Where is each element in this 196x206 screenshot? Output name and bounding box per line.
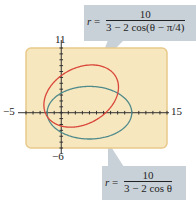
equation-lhs: r =	[87, 15, 100, 27]
equation-fraction: 10 3 − 2 cos θ	[124, 169, 172, 194]
y-max-label: 11	[55, 33, 66, 45]
equation-fraction: 10 3 − 2 cos(θ − π/4)	[106, 8, 185, 33]
equation-callout-top: r = 10 3 − 2 cos(θ − π/4)	[84, 5, 196, 41]
equation-lhs: r =	[105, 176, 118, 188]
equation-callout-bottom: r = 10 3 − 2 cos θ	[102, 166, 186, 200]
y-min-label: −6	[52, 150, 64, 162]
x-max-label: 15	[171, 105, 182, 117]
graph-window	[26, 48, 167, 148]
x-min-label: −5	[3, 105, 15, 117]
